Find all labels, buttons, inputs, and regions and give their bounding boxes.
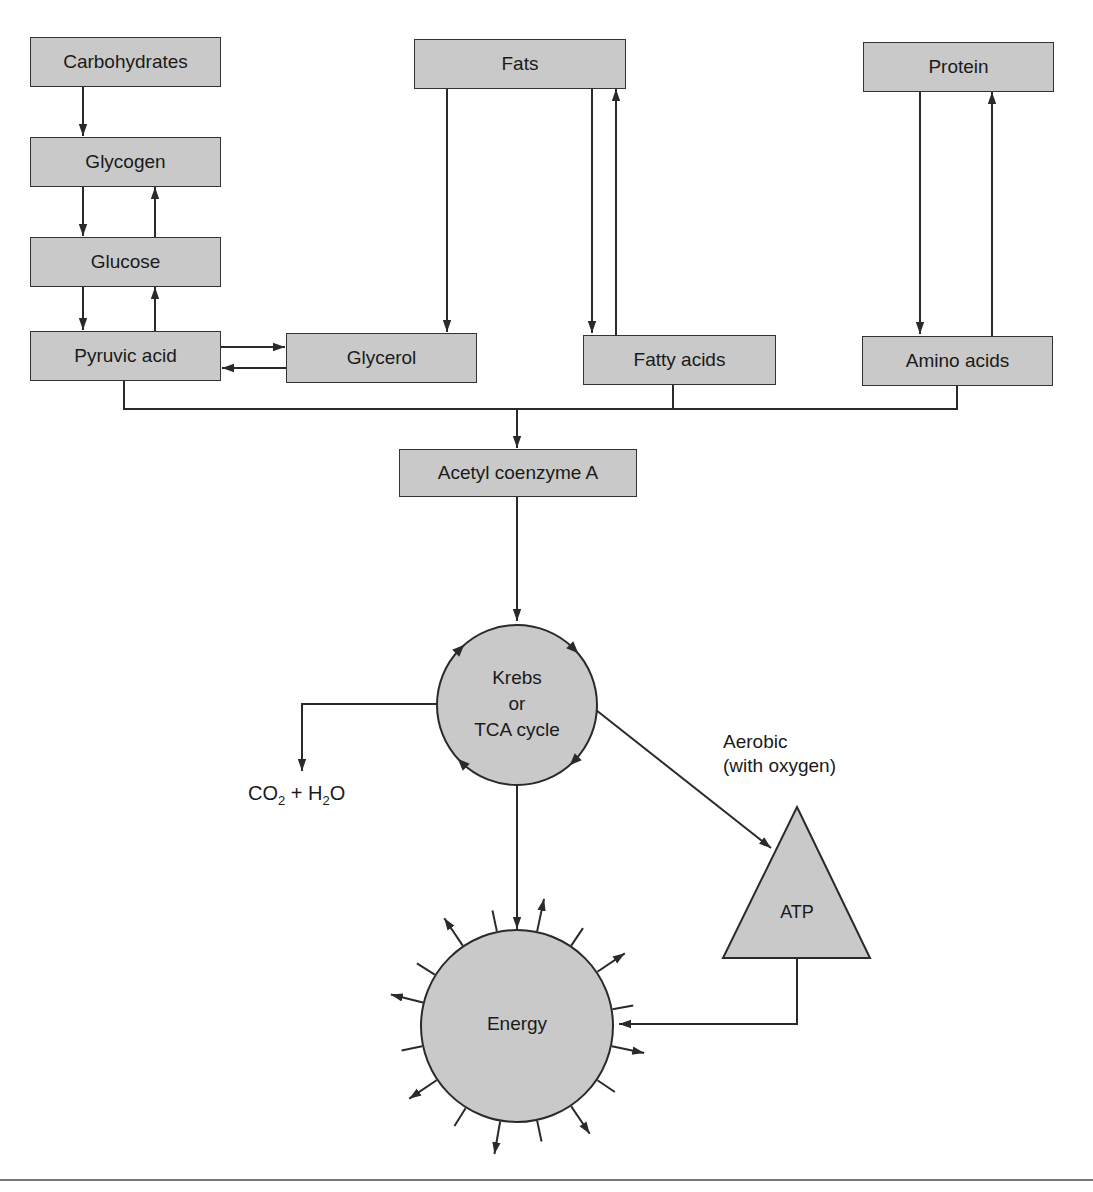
node-label: Fatty acids — [634, 349, 726, 371]
node-acetyl-coenzyme-a: Acetyl coenzyme A — [399, 449, 637, 497]
node-protein: Protein — [863, 42, 1054, 92]
edge-atp-energy — [619, 958, 797, 1024]
node-amino-acids: Amino acids — [862, 336, 1053, 386]
energy-ray-tick-icon — [454, 1108, 465, 1126]
node-carbohydrates: Carbohydrates — [30, 37, 221, 87]
bottom-rule — [0, 1179, 1093, 1181]
subscript: 2 — [322, 793, 329, 808]
energy-ray-tick-icon — [597, 1080, 614, 1092]
energy-ray-tick-icon — [492, 911, 496, 932]
node-glycogen: Glycogen — [30, 137, 221, 187]
energy-text: Energy — [487, 1013, 547, 1034]
krebs-label-line2: or — [457, 691, 577, 717]
node-label: Glucose — [91, 251, 161, 273]
plus-h-text: + H — [285, 782, 322, 804]
atp-label: ATP — [757, 899, 837, 925]
co-text: CO — [248, 782, 278, 804]
aerobic-line1: Aerobic — [723, 730, 836, 754]
krebs-label-line1: Krebs — [457, 665, 577, 691]
energy-ray-arrow-icon — [612, 1046, 644, 1053]
energy-ray-arrow-icon — [597, 953, 624, 971]
node-label: Amino acids — [906, 350, 1010, 372]
aerobic-line2: (with oxygen) — [723, 754, 836, 778]
energy-ray-tick-icon — [571, 928, 583, 945]
node-label: Pyruvic acid — [74, 345, 176, 367]
krebs-label-line3: TCA cycle — [457, 717, 577, 743]
node-glucose: Glucose — [30, 237, 221, 287]
energy-ray-tick-icon — [537, 1121, 541, 1142]
energy-ray-arrow-icon — [537, 899, 544, 931]
krebs-label: Krebs or TCA cycle — [457, 665, 577, 743]
energy-ray-tick-icon — [417, 963, 435, 974]
edge-krebs-co2 — [302, 704, 438, 771]
node-label: Fats — [502, 53, 539, 75]
node-fatty-acids: Fatty acids — [583, 335, 776, 385]
co2-h2o-label: CO2 + H2O — [248, 781, 345, 813]
node-pyruvic-acid: Pyruvic acid — [30, 331, 221, 381]
node-label: Glycerol — [347, 347, 417, 369]
energy-ray-tick-icon — [402, 1046, 423, 1050]
atp-node — [723, 807, 870, 958]
node-label: Carbohydrates — [63, 51, 188, 73]
energy-ray-arrow-icon — [444, 918, 462, 945]
node-fats: Fats — [414, 39, 626, 89]
energy-label: Energy — [457, 1011, 577, 1037]
node-label: Glycogen — [85, 151, 165, 173]
node-glycerol: Glycerol — [286, 333, 477, 383]
aerobic-label: Aerobic (with oxygen) — [723, 730, 836, 778]
energy-ray-arrow-icon — [571, 1106, 589, 1133]
energy-ray-arrow-icon — [409, 1080, 436, 1098]
node-label: Acetyl coenzyme A — [438, 462, 599, 484]
node-label: Protein — [928, 56, 988, 78]
o-text: O — [330, 782, 346, 804]
edge-collector — [124, 380, 957, 409]
energy-ray-arrow-icon — [391, 995, 423, 1003]
energy-ray-tick-icon — [613, 1006, 634, 1010]
atp-text: ATP — [780, 902, 814, 922]
energy-ray-arrow-icon — [494, 1122, 500, 1154]
